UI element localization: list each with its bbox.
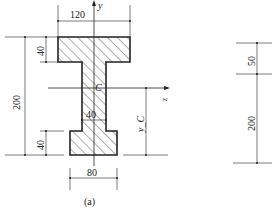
centroid-label: C [95,82,102,93]
centroid-distance-label: y_C [135,116,146,133]
bottom-width-label: 80 [87,167,97,178]
right-upper-dim-label: 50 [246,56,257,66]
right-lower-dim-label: 200 [246,116,257,131]
y-axis-label: y [97,0,103,11]
figure-caption: (a) [84,196,95,208]
bottom-flange-height-label: 40 [35,140,46,150]
top-flange-height-label: 40 [35,46,46,56]
web-width-label: 40 [86,109,96,120]
total-height-label: 200 [11,95,22,110]
diagram-canvas: y z C 120 200 40 40 [0,0,272,214]
top-width-label: 120 [70,9,85,20]
z-axis [48,86,170,90]
z-axis-label: z [161,98,170,102]
